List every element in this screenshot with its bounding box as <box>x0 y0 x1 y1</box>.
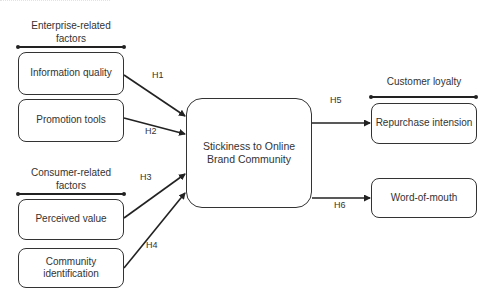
node-repurchase-intension: Repurchase intension <box>371 103 477 144</box>
node-label-line1: Stickiness to Online <box>203 140 295 153</box>
node-label: Perceived value <box>35 213 106 226</box>
enterprise-label-line2: factors <box>18 33 124 46</box>
hypothesis-label-h4: H4 <box>146 240 158 250</box>
node-information-quality: Information quality <box>18 52 124 95</box>
node-label-line1: Community <box>43 256 99 269</box>
node-label-line2: identification <box>43 268 99 281</box>
enterprise-group-label: Enterprise-related factors <box>18 20 124 45</box>
node-label: Information quality <box>30 67 112 80</box>
node-community-identification: Community identification <box>18 248 124 288</box>
node-label: Word-of-mouth <box>391 192 458 205</box>
arrow-h3 <box>124 174 185 218</box>
consumer-label-line1: Consumer-related <box>18 167 124 180</box>
hypothesis-label-h5: H5 <box>330 95 342 105</box>
node-stickiness: Stickiness to Online Brand Community <box>186 98 312 208</box>
loyalty-group-label: Customer loyalty <box>371 76 477 89</box>
consumer-label-line2: factors <box>18 180 124 193</box>
node-perceived-value: Perceived value <box>18 199 124 240</box>
node-label-line2: Brand Community <box>203 153 295 166</box>
arrow-h4 <box>124 193 185 268</box>
hypothesis-label-h6: H6 <box>334 200 346 210</box>
arrow-h1 <box>124 75 185 116</box>
node-label: Promotion tools <box>36 114 105 127</box>
consumer-group-label: Consumer-related factors <box>18 167 124 192</box>
enterprise-label-line1: Enterprise-related <box>18 20 124 33</box>
loyalty-label-line1: Customer loyalty <box>371 76 477 89</box>
node-promotion-tools: Promotion tools <box>18 99 124 142</box>
hypothesis-label-h1: H1 <box>152 70 164 80</box>
node-label: Repurchase intension <box>376 117 473 130</box>
hypothesis-label-h2: H2 <box>145 126 157 136</box>
hypothesis-label-h3: H3 <box>140 172 152 182</box>
node-word-of-mouth: Word-of-mouth <box>371 178 477 218</box>
